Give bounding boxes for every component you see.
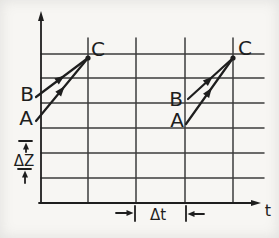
dt-arrow-1-head [188, 211, 195, 217]
point-label-B-left: B [20, 82, 34, 106]
scanned-motion-diagram: tCCBABAΔZΔt [0, 0, 279, 238]
point-label-A-right: A [170, 108, 184, 132]
dz-arrow-1-head [22, 171, 28, 178]
x-axis-label: t [265, 201, 271, 220]
point-label-C-right: C [238, 36, 252, 60]
point-C-left [85, 55, 90, 60]
point-label-A-left: A [19, 106, 33, 130]
dz-label: ΔZ [14, 152, 35, 170]
dt-arrow-0-head [127, 210, 134, 216]
point-C-right [230, 55, 235, 60]
dz-arrow-0-head [23, 143, 29, 150]
x-axis-arrow-head [251, 200, 261, 206]
dt-label: Δt [150, 206, 166, 224]
point-label-C-left: C [91, 37, 105, 61]
y-axis-arrow-head [38, 11, 44, 21]
z-t-grid-graph: tCCBABAΔZΔt [0, 0, 279, 238]
